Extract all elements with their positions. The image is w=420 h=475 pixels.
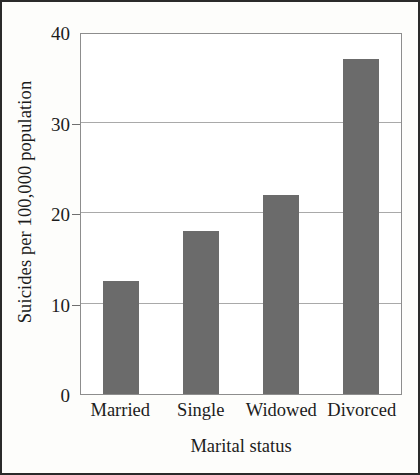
bar-slot — [81, 34, 161, 394]
plot-area — [80, 33, 402, 395]
x-tick-label-married: Married — [80, 400, 161, 421]
y-tick-label-10: 10 — [26, 295, 70, 314]
y-tick-mark-10 — [72, 305, 80, 306]
bar-slot — [321, 34, 401, 394]
y-tick-label-20: 20 — [26, 205, 70, 224]
y-tick-label-40: 40 — [26, 24, 70, 43]
bar-widowed — [263, 195, 299, 394]
x-axis-tick-labels: MarriedSingleWidowedDivorced — [80, 400, 402, 421]
x-axis-title: Marital status — [80, 436, 402, 457]
x-tick-label-widowed: Widowed — [241, 400, 322, 421]
x-tick-label-divorced: Divorced — [322, 400, 403, 421]
bar-divorced — [343, 59, 379, 394]
bar-chart-figure: Suicides per 100,000 population 01020304… — [0, 0, 420, 475]
y-tick-label-30: 30 — [26, 114, 70, 133]
x-tick-label-single: Single — [161, 400, 242, 421]
y-tick-mark-30 — [72, 124, 80, 125]
bar-single — [183, 231, 219, 394]
bar-slot — [241, 34, 321, 394]
bar-married — [103, 281, 139, 394]
y-axis-title: Suicides per 100,000 population — [10, 2, 40, 402]
y-tick-mark-20 — [72, 214, 80, 215]
bar-series — [81, 34, 401, 394]
bar-slot — [161, 34, 241, 394]
y-tick-label-0: 0 — [26, 386, 70, 405]
